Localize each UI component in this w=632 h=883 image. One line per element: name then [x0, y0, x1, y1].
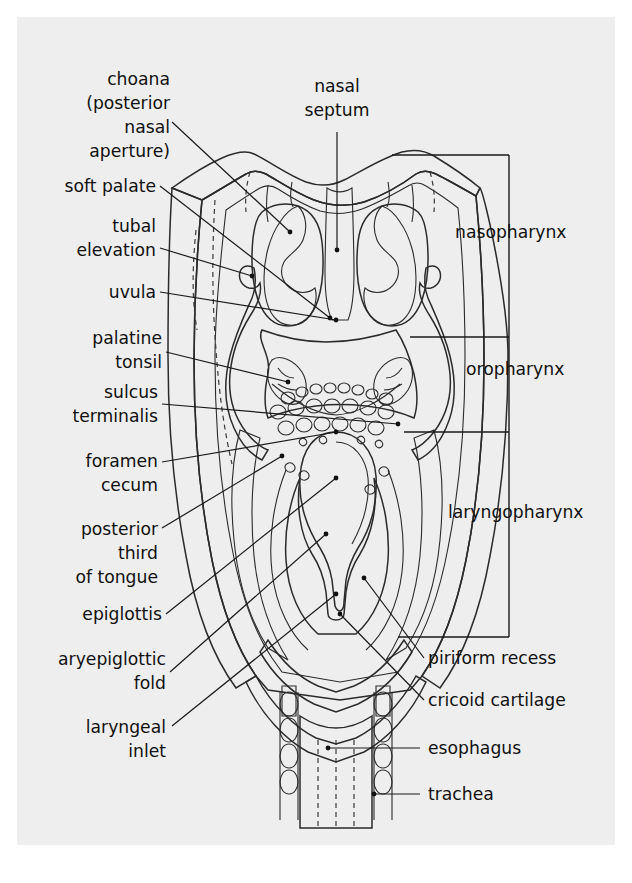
label-sulcus-line1: sulcus [104, 382, 158, 402]
leader-tubal-elevation [160, 248, 252, 276]
label-nasopharynx-text: nasopharynx [455, 222, 567, 242]
label-tubal-line1: tubal [112, 216, 156, 236]
label-foramen-line1: foramen [86, 451, 158, 471]
right-piriform-recess [386, 430, 442, 660]
label-palatine-line2: tonsil [115, 352, 162, 372]
label-sulcus-terminalis[interactable]: sulcus terminalis [72, 382, 158, 426]
label-soft-palate-text: soft palate [65, 176, 157, 196]
right-inferior-concha [364, 206, 416, 325]
leader-dot-epiglottis [334, 476, 339, 481]
nasopharynx-roof-line-left [267, 185, 269, 222]
label-choana-line4: aperture) [89, 141, 170, 161]
label-piriform-recess[interactable]: piriform recess [428, 648, 556, 668]
leader-dot-foramen-cecum [334, 430, 339, 435]
trachea-right-cartilage-rings [374, 686, 392, 820]
label-choana[interactable]: choana (posterior nasal aperture) [86, 69, 171, 161]
leader-dot-laryngeal-inlet [334, 592, 339, 597]
label-posterior-line2: third [118, 543, 158, 563]
label-epiglottis[interactable]: epiglottis [82, 604, 162, 624]
label-foramen-line2: cecum [101, 475, 158, 495]
label-foramen-cecum[interactable]: foramen cecum [86, 451, 158, 495]
pharyngeal-wall-outer [172, 150, 480, 205]
leader-sulcus-terminalis [162, 404, 398, 424]
label-nasopharynx[interactable]: nasopharynx [455, 222, 567, 242]
label-laryngopharynx[interactable]: laryngopharynx [448, 502, 584, 522]
label-laryngopharynx-text: laryngopharynx [448, 502, 584, 522]
label-piriform-recess-text: piriform recess [428, 648, 556, 668]
left-aryepiglottic-fold [271, 470, 308, 650]
left-lateral-wall [168, 188, 256, 688]
label-uvula[interactable]: uvula [109, 282, 156, 302]
label-palatine-tonsil[interactable]: palatine tonsil [92, 328, 162, 372]
label-uvula-text: uvula [109, 282, 156, 302]
nasopharynx-roof-line-left2 [291, 182, 293, 207]
nasopharynx-roof-line-right2 [387, 182, 389, 207]
right-pharyngeal-recess-dashed [430, 172, 434, 212]
label-palatine-line1: palatine [92, 328, 162, 348]
leader-laryngeal-inlet [172, 594, 336, 726]
label-laryngeal-inlet[interactable]: laryngeal inlet [86, 717, 166, 761]
label-cricoid-cartilage-text: cricoid cartilage [428, 690, 566, 710]
label-posterior-line3: of tongue [75, 567, 158, 587]
leader-dot-nasal-septum [335, 248, 340, 253]
label-posterior-line1: posterior [81, 519, 159, 539]
right-lateral-wall [422, 188, 508, 688]
label-aryepiglottic-fold[interactable]: aryepiglottic fold [58, 649, 166, 693]
label-laryngeal-line2: inlet [128, 741, 166, 761]
leader-soft-palate [160, 186, 330, 318]
label-nasal-septum-line2: septum [305, 100, 370, 120]
label-nasal-septum[interactable]: nasal septum [305, 76, 370, 120]
label-oropharynx[interactable]: oropharynx [466, 359, 564, 379]
left-piriform-recess [232, 430, 288, 660]
leader-uvula [160, 292, 336, 320]
label-tubal-elevation[interactable]: tubal elevation [76, 216, 156, 260]
leader-dot-esophagus [326, 746, 331, 751]
leader-posterior-third [162, 456, 282, 528]
trachea-left-cartilage-rings [280, 686, 298, 820]
leader-dot-tubal-elevation [250, 274, 255, 279]
label-choana-line1: choana [107, 69, 170, 89]
label-aryepiglottic-line1: aryepiglottic [58, 649, 166, 669]
figure-root: choana (posterior nasal aperture) soft p… [0, 0, 632, 883]
leader-dot-aryepiglottic-fold [324, 532, 329, 537]
leader-epiglottis [166, 478, 336, 614]
nasopharynx-roof-line-right [412, 185, 414, 222]
epiglottis-inner-line [336, 442, 368, 544]
label-nasal-septum-line1: nasal [314, 76, 360, 96]
nasal-septum-structure [325, 188, 354, 320]
left-inferior-concha [264, 206, 316, 325]
leader-aryepiglottic-fold [170, 534, 326, 672]
pharynx-anatomical-diagram: choana (posterior nasal aperture) soft p… [0, 0, 632, 883]
right-choana-opening [357, 204, 428, 326]
label-soft-palate[interactable]: soft palate [65, 176, 157, 196]
label-epiglottis-text: epiglottis [82, 604, 162, 624]
label-oropharynx-text: oropharynx [466, 359, 564, 379]
label-laryngeal-line1: laryngeal [86, 717, 166, 737]
label-trachea[interactable]: trachea [428, 784, 494, 804]
label-choana-line2: (posterior [86, 93, 171, 113]
leader-dot-sulcus-terminalis [396, 422, 401, 427]
leader-dot-piriform-recess [362, 576, 367, 581]
label-tubal-line2: elevation [76, 240, 156, 260]
label-cricoid-cartilage[interactable]: cricoid cartilage [428, 690, 566, 710]
label-choana-line3: nasal [124, 117, 170, 137]
left-tubal-elevation [226, 266, 268, 460]
label-esophagus-text: esophagus [428, 738, 521, 758]
leader-dot-choana [288, 230, 293, 235]
leader-dot-cricoid-cartilage [338, 612, 343, 617]
label-posterior-third-of-tongue[interactable]: posterior third of tongue [75, 519, 158, 587]
epiglottis [300, 432, 377, 611]
leader-dot-uvula [334, 318, 339, 323]
label-sulcus-line2: terminalis [72, 406, 158, 426]
label-aryepiglottic-line2: fold [134, 673, 166, 693]
leader-dot-palatine-tonsil [286, 380, 291, 385]
label-esophagus[interactable]: esophagus [428, 738, 521, 758]
leader-dot-posterior-third [280, 454, 285, 459]
leader-dot-trachea [372, 792, 377, 797]
label-trachea-text: trachea [428, 784, 494, 804]
